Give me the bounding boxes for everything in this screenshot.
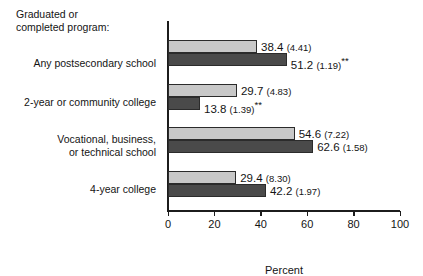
category-label-3: 4-year college xyxy=(0,183,162,196)
x-tick-40 xyxy=(260,211,262,216)
bar-g2-s1 xyxy=(168,140,313,153)
bar-estimate: 29.4 xyxy=(240,172,262,184)
bar-standard-error: (1.97) xyxy=(295,186,320,197)
x-tick-label-80: 80 xyxy=(347,218,359,230)
bar-g0-s0 xyxy=(168,40,257,53)
bar-g1-s1 xyxy=(168,97,200,110)
bar-estimate: 62.6 xyxy=(317,141,339,153)
bar-estimate: 38.4 xyxy=(261,41,283,53)
bar-estimate: 13.8 xyxy=(204,102,226,114)
bar-value-g2-s1: 62.6 (1.58) xyxy=(317,141,367,154)
bar-standard-error: (8.30) xyxy=(266,173,291,184)
bar-estimate: 42.2 xyxy=(270,185,292,197)
x-axis-title: Percent xyxy=(168,264,400,276)
bar-standard-error: (7.22) xyxy=(324,129,349,140)
bar-value-g3-s1: 42.2 (1.97) xyxy=(270,185,320,198)
x-tick-100 xyxy=(400,211,402,216)
plot-area: 020406080100 38.4 (4.41)51.2 (1.19)**29.… xyxy=(168,21,400,210)
x-tick-label-40: 40 xyxy=(255,218,267,230)
significance-marker: ** xyxy=(254,99,261,110)
category-label-0: Any postsecondary school xyxy=(0,57,162,70)
bar-standard-error: (1.39) xyxy=(230,103,255,114)
x-tick-20 xyxy=(214,211,216,216)
x-axis-line xyxy=(167,210,400,212)
bar-value-g1-s1: 13.8 (1.39)** xyxy=(204,98,262,116)
bar-estimate: 29.7 xyxy=(241,85,263,97)
bar-estimate: 54.6 xyxy=(299,128,321,140)
x-tick-60 xyxy=(307,211,309,216)
category-label-2: Vocational, business, or technical schoo… xyxy=(0,133,162,158)
bar-g0-s1 xyxy=(168,53,287,66)
category-label-group: Any postsecondary school2-year or commun… xyxy=(0,21,162,210)
bar-standard-error: (4.83) xyxy=(266,86,291,97)
bar-value-g3-s0: 29.4 (8.30) xyxy=(240,172,290,185)
bar-standard-error: (1.19) xyxy=(316,59,341,70)
bar-value-g1-s0: 29.7 (4.83) xyxy=(241,85,291,98)
significance-marker: ** xyxy=(341,55,348,66)
bar-g1-s0 xyxy=(168,84,237,97)
bar-g2-s0 xyxy=(168,127,295,140)
bar-standard-error: (4.41) xyxy=(287,42,312,53)
bar-g3-s0 xyxy=(168,171,236,184)
x-tick-0 xyxy=(168,211,170,216)
bar-value-g0-s0: 38.4 (4.41) xyxy=(261,41,311,54)
bar-standard-error: (1.58) xyxy=(343,142,368,153)
x-tick-label-0: 0 xyxy=(165,218,171,230)
bar-value-g0-s1: 51.2 (1.19)** xyxy=(291,54,349,72)
x-tick-80 xyxy=(353,211,355,216)
x-tick-label-60: 60 xyxy=(301,218,313,230)
category-label-1: 2-year or community college xyxy=(0,96,162,109)
bar-g3-s1 xyxy=(168,184,266,197)
x-tick-label-20: 20 xyxy=(208,218,220,230)
bar-estimate: 51.2 xyxy=(291,58,313,70)
x-tick-label-100: 100 xyxy=(391,218,409,230)
bar-value-g2-s0: 54.6 (7.22) xyxy=(299,128,349,141)
